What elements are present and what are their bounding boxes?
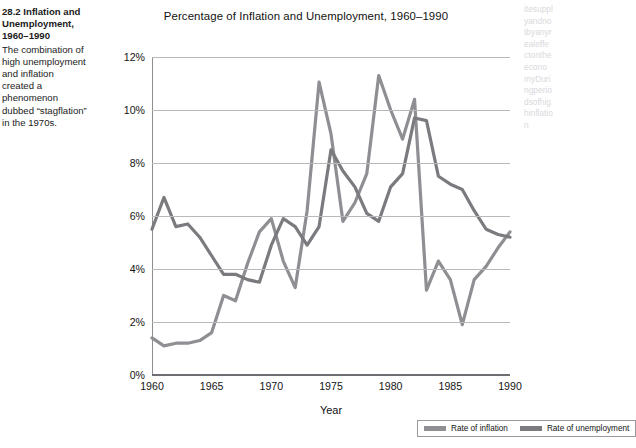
legend-swatch-unemployment xyxy=(520,426,542,431)
chart-legend: Rate of inflation Rate of unemployment xyxy=(417,420,636,437)
x-axis-tick-label: 1985 xyxy=(439,380,463,392)
plot-area: 0%2%4%6%8%10%12%196019651970197519801985… xyxy=(152,57,510,375)
y-axis-tick-label: 10% xyxy=(124,104,145,116)
x-axis-tick-label: 1965 xyxy=(200,380,224,392)
y-axis-tick-label: 6% xyxy=(130,210,145,222)
y-axis-tick-label: 8% xyxy=(130,157,145,169)
gridline xyxy=(152,322,510,323)
y-axis-tick-label: 4% xyxy=(130,263,145,275)
chart-container: Percentage of Inflation and Unemployment… xyxy=(96,0,521,448)
figure-caption: 28.2 Inflation and Unemployment, 1960–19… xyxy=(2,6,88,129)
gridline xyxy=(152,375,510,376)
x-axis-tick-label: 1960 xyxy=(140,380,164,392)
figure-caption-body: The combination of high unemployment and… xyxy=(2,44,88,129)
y-axis-tick-label: 12% xyxy=(124,51,145,63)
gridline xyxy=(152,163,510,164)
legend-item-unemployment: Rate of unemployment xyxy=(520,424,629,433)
adjacent-column-bleed: itesupplyandnotbyanyrealeffectontheecono… xyxy=(524,4,553,304)
x-axis-tick-label: 1980 xyxy=(379,380,403,392)
x-axis-tick-label: 1990 xyxy=(498,380,522,392)
gridline xyxy=(152,269,510,270)
x-axis-tick-label: 1975 xyxy=(319,380,343,392)
figure-number: 28.2 xyxy=(2,6,21,17)
x-axis-label: Year xyxy=(152,404,510,416)
gridline xyxy=(152,110,510,111)
gridline xyxy=(152,216,510,217)
legend-swatch-inflation xyxy=(424,426,446,431)
gridline xyxy=(152,57,510,58)
legend-label-unemployment: Rate of unemployment xyxy=(547,424,629,433)
y-axis-tick-label: 2% xyxy=(130,316,145,328)
legend-item-inflation: Rate of inflation xyxy=(424,424,508,433)
legend-label-inflation: Rate of inflation xyxy=(451,424,508,433)
x-axis-tick-label: 1970 xyxy=(260,380,284,392)
series-line xyxy=(152,76,510,346)
chart-title: Percentage of Inflation and Unemployment… xyxy=(96,10,516,22)
